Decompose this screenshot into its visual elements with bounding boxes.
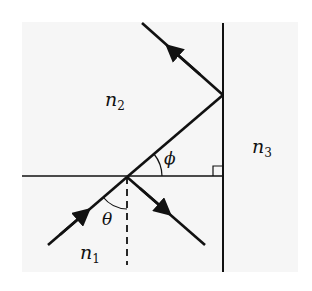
label-n2: n2 [105, 90, 125, 112]
phi-arc [154, 154, 162, 176]
label-n2-base: n [105, 88, 117, 110]
incident-ray [48, 177, 127, 245]
label-n3-sub: 3 [264, 146, 272, 160]
label-phi: ϕ [164, 150, 176, 167]
label-n3: n3 [252, 137, 272, 159]
right-angle-marker [213, 166, 223, 176]
label-n3-base: n [252, 135, 264, 157]
optics-diagram: n2 n3 n1 θ ϕ [0, 0, 312, 291]
label-n1: n1 [80, 243, 100, 265]
theta-arc [103, 197, 127, 209]
label-n1-sub: 1 [92, 252, 100, 266]
reflected-ray [127, 177, 205, 245]
label-n2-sub: 2 [117, 99, 125, 113]
label-theta: θ [102, 211, 112, 228]
label-n1-base: n [80, 241, 92, 263]
